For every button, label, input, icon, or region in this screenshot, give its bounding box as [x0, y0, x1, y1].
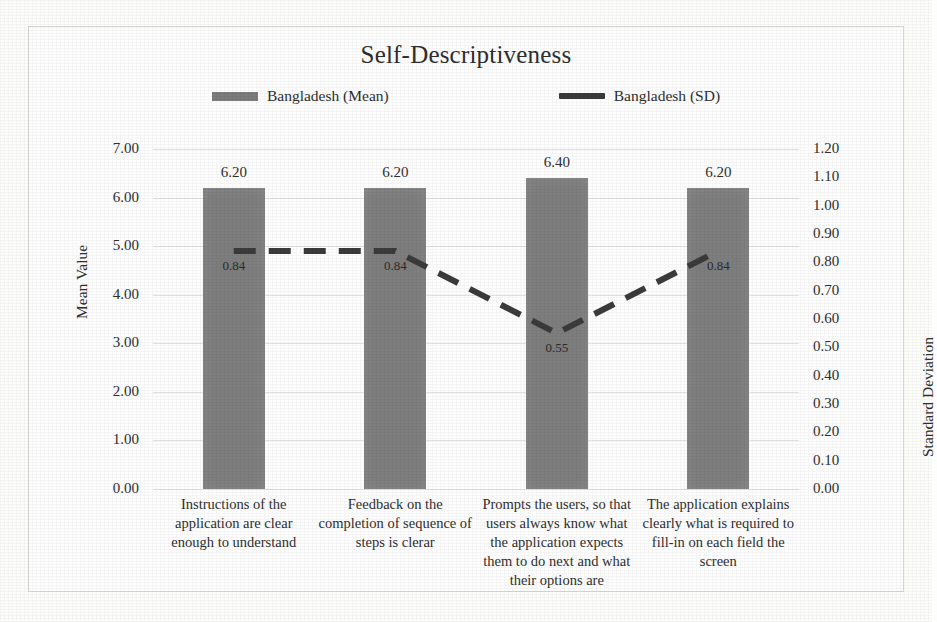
sd-polyline	[234, 251, 719, 333]
y-tick-right: 0.10	[799, 452, 873, 469]
y-tick-right: 1.20	[799, 140, 873, 157]
chart-title: Self-Descriptiveness	[29, 41, 903, 69]
y-tick-left: 6.00	[83, 189, 153, 206]
y-tick-left: 7.00	[83, 140, 153, 157]
sd-line-series	[153, 149, 799, 489]
y-tick-right: 1.00	[799, 197, 873, 214]
x-category-label: Prompts the users, so that users always …	[476, 495, 638, 590]
sd-value-label: 0.55	[522, 340, 592, 356]
legend-bar-swatch-icon	[212, 92, 258, 101]
y-tick-left: 5.00	[83, 237, 153, 254]
legend-item-mean: Bangladesh (Mean)	[212, 87, 389, 105]
x-category-label: The application explains clearly what is…	[638, 495, 800, 590]
x-category-label: Feedback on the completion of sequence o…	[315, 495, 477, 590]
y-tick-right: 0.60	[799, 310, 873, 327]
y-tick-right: 0.30	[799, 395, 873, 412]
chart-frame: Self-Descriptiveness Bangladesh (Mean) B…	[28, 26, 904, 592]
legend-line-swatch-icon	[559, 93, 605, 99]
y-tick-left: 1.00	[83, 431, 153, 448]
y-axis-right-title: Standard Deviation	[919, 337, 937, 457]
y-tick-right: 0.20	[799, 423, 873, 440]
y-tick-left: 2.00	[83, 383, 153, 400]
legend-item-sd: Bangladesh (SD)	[559, 87, 720, 105]
chart-legend: Bangladesh (Mean) Bangladesh (SD)	[29, 87, 903, 105]
y-tick-left: 3.00	[83, 334, 153, 351]
legend-label-sd: Bangladesh (SD)	[614, 87, 720, 105]
y-tick-left: 0.00	[83, 480, 153, 497]
y-tick-right: 0.80	[799, 253, 873, 270]
y-tick-right: 0.90	[799, 225, 873, 242]
x-axis-category-labels: Instructions of the application are clea…	[153, 495, 799, 590]
y-tick-right: 0.70	[799, 282, 873, 299]
y-axis-left-title: Mean Value	[73, 245, 91, 319]
y-tick-right: 0.50	[799, 338, 873, 355]
gridline	[153, 489, 799, 490]
plot-area: 0.001.002.003.004.005.006.007.00 0.000.1…	[153, 149, 799, 489]
sd-value-label: 0.84	[360, 258, 430, 274]
legend-label-mean: Bangladesh (Mean)	[267, 87, 389, 105]
sd-value-label: 0.84	[199, 258, 269, 274]
y-tick-right: 0.00	[799, 480, 873, 497]
x-category-label: Instructions of the application are clea…	[153, 495, 315, 590]
y-tick-left: 4.00	[83, 286, 153, 303]
y-tick-right: 1.10	[799, 168, 873, 185]
y-tick-right: 0.40	[799, 367, 873, 384]
sd-value-label: 0.84	[683, 258, 753, 274]
